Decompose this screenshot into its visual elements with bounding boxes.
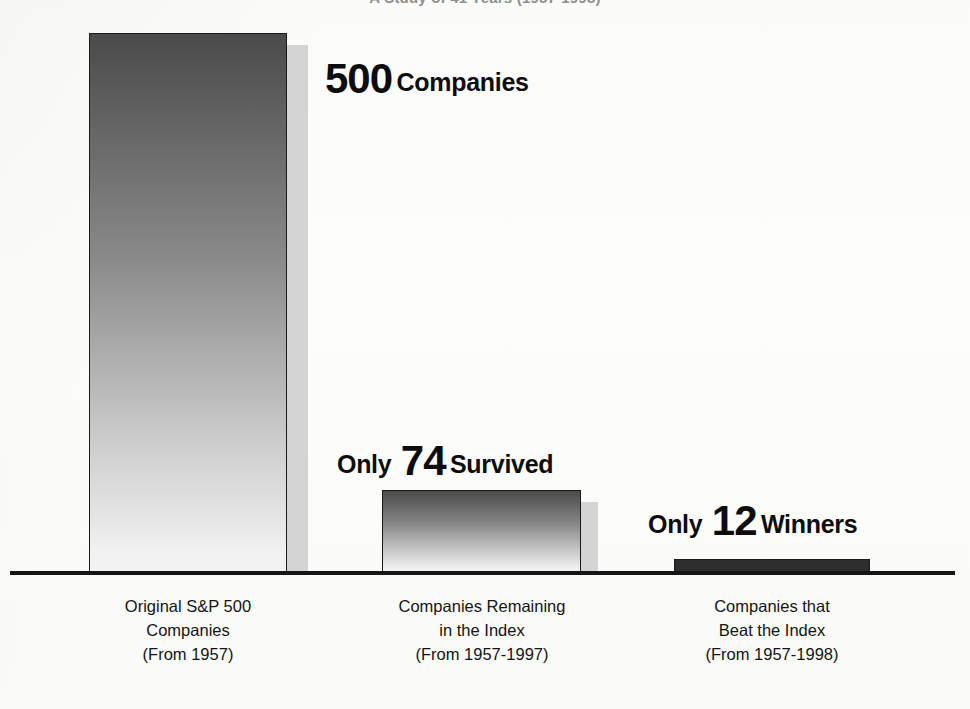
value-callout-original-sp500: 500 Companies <box>325 55 529 103</box>
category-label-beat-the-index: Companies that Beat the Index (From 1957… <box>652 594 892 666</box>
bar-original-sp500[interactable] <box>89 33 287 573</box>
baseline-axis <box>10 571 955 575</box>
category-label-remaining-in-index: Companies Remaining in the Index (From 1… <box>362 594 602 666</box>
plot-area: 500 Companies Original S&P 500 Companies… <box>0 0 970 709</box>
cat-line-1: Original S&P 500 <box>68 594 308 618</box>
callout-word-winners: Winners <box>761 510 857 538</box>
category-label-original-sp500: Original S&P 500 Companies (From 1957) <box>68 594 308 666</box>
cat-line-3: (From 1957) <box>68 642 308 666</box>
callout-number-74: 74 <box>401 437 446 484</box>
cat-line-2: in the Index <box>362 618 602 642</box>
callout-word-companies: Companies <box>397 68 529 96</box>
cat-line-2: Beat the Index <box>652 618 892 642</box>
callout-word-survived: Survived <box>450 450 553 478</box>
callout-number-12: 12 <box>712 497 757 544</box>
cat-line-1: Companies Remaining <box>362 594 602 618</box>
callout-number-500: 500 <box>325 55 392 102</box>
cat-line-1: Companies that <box>652 594 892 618</box>
bar-remaining-in-index[interactable] <box>382 490 581 573</box>
value-callout-beat-the-index: Only 12 Winners <box>648 497 857 545</box>
bar-shadow-original-sp500 <box>287 45 308 572</box>
cat-line-3: (From 1957-1998) <box>652 642 892 666</box>
bar-shadow-remaining-in-index <box>581 502 598 572</box>
value-callout-remaining-in-index: Only 74 Survived <box>337 437 553 485</box>
cat-line-2: Companies <box>68 618 308 642</box>
callout-word-only-74: Only <box>337 450 391 478</box>
callout-word-only-12: Only <box>648 510 702 538</box>
cat-line-3: (From 1957-1997) <box>362 642 602 666</box>
